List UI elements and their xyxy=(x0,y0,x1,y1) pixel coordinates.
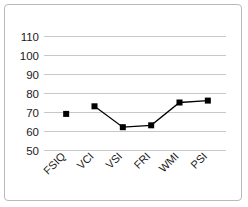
gridlines-group xyxy=(44,37,226,151)
x-axis-tick-label: PSI xyxy=(188,150,209,171)
data-point-marker xyxy=(205,98,211,104)
y-axis-tick-label: 50 xyxy=(26,145,39,157)
x-axis-tick-label: FSIQ xyxy=(41,150,68,177)
x-axis-tick-labels: FSIQVCIVSIFRIWMIPSI xyxy=(41,150,209,177)
data-point-marker xyxy=(63,111,69,117)
x-axis-tick-label: VCI xyxy=(74,150,95,171)
data-point-marker xyxy=(92,103,98,109)
y-axis-tick-label: 90 xyxy=(26,69,39,81)
y-axis-tick-label: 110 xyxy=(21,31,39,43)
data-point-marker xyxy=(120,124,126,130)
y-axis-tick-label: 70 xyxy=(26,107,39,119)
x-axis-tick-label: WMI xyxy=(156,150,180,174)
y-axis-tick-label: 80 xyxy=(26,88,39,100)
data-point-marker xyxy=(177,100,183,106)
data-point-marker xyxy=(148,122,154,128)
y-axis-tick-label: 100 xyxy=(20,50,39,62)
x-axis-tick-label: FRI xyxy=(132,150,153,171)
y-axis-tick-label: 60 xyxy=(26,126,39,138)
y-axis-tick-labels: 5060708090100110 xyxy=(20,31,39,157)
line-chart: 5060708090100110 FSIQVCIVSIFRIWMIPSI xyxy=(0,0,248,207)
x-axis-tick-label: VSI xyxy=(103,150,124,171)
